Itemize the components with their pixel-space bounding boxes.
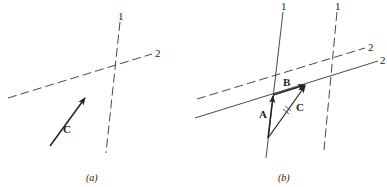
panel-a: 1 2 C (a)	[8, 10, 161, 184]
panel-a-axis-2	[8, 54, 152, 98]
panel-b-vector-a-label: A	[259, 108, 267, 120]
panel-b-caption: (b)	[278, 172, 290, 184]
panel-a-axis-1-label: 1	[118, 10, 124, 22]
panel-a-caption: (a)	[86, 172, 98, 184]
panel-b: 1 1 2 2 A B C (b)	[195, 0, 386, 184]
panel-b-axis-2-dashed-label: 2	[368, 41, 374, 53]
panel-b-axis-2-solid	[195, 61, 378, 118]
panel-a-axis-2-label: 2	[155, 47, 161, 59]
panel-b-axis-1-dashed	[324, 12, 337, 150]
panel-b-vector-b-label: B	[283, 76, 291, 88]
panel-a-vector-c	[50, 98, 85, 146]
panel-b-axis-1-dashed-label: 1	[335, 0, 341, 12]
panel-a-axis-1	[106, 22, 120, 153]
panel-b-vector-c-label: C	[296, 101, 304, 113]
panel-b-axis-2-solid-label: 2	[380, 54, 386, 66]
panel-a-vector-c-label: C	[63, 123, 71, 135]
vector-decomposition-figure: 1 2 C (a) 1 1 2 2 A B	[0, 0, 387, 187]
panel-b-axis-1-solid-label: 1	[281, 0, 287, 12]
